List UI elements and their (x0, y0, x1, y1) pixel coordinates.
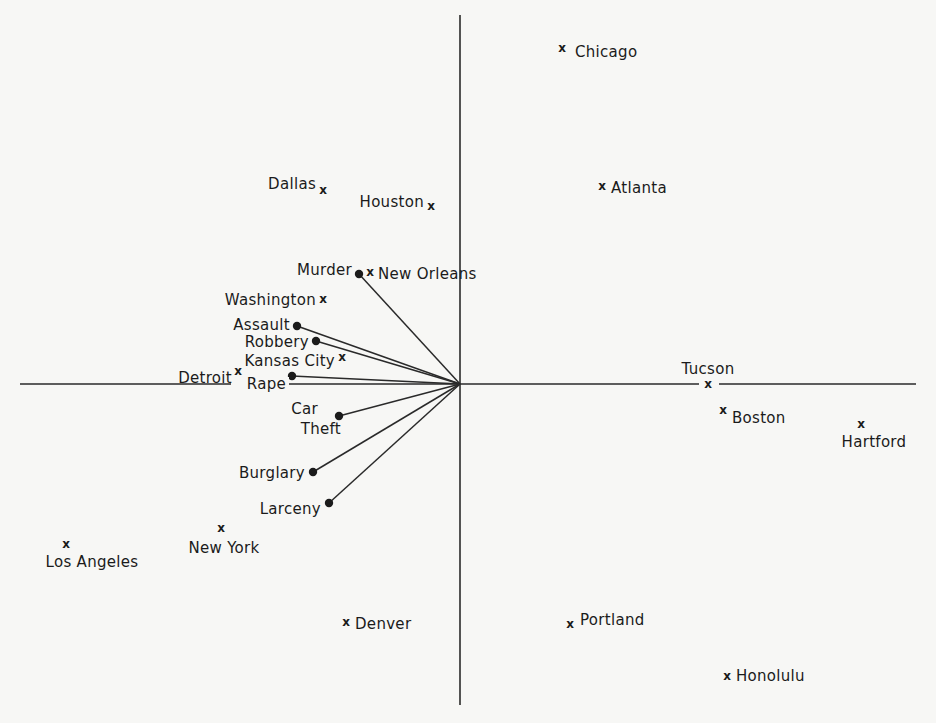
marker-atlanta: x (598, 179, 606, 193)
label-houston: Houston (360, 193, 424, 211)
label-denver: Denver (355, 615, 412, 633)
label-portland: Portland (580, 611, 645, 629)
label-assault: Assault (233, 316, 290, 334)
marker-hartford: x (857, 417, 865, 431)
marker-portland: x (566, 617, 574, 631)
marker-kansas-city: x (338, 350, 346, 364)
biplot-chart: Murder Assault Robbery Rape Car Theft Bu… (0, 0, 936, 723)
label-honolulu: Honolulu (736, 667, 805, 685)
label-boston: Boston (732, 409, 786, 427)
marker-boston: x (719, 403, 727, 417)
marker-new-york: x (217, 521, 225, 535)
dot-robbery (312, 337, 320, 345)
city-labels: Chicago Atlanta Dallas Houston New Orlea… (46, 43, 907, 685)
dot-rape (288, 372, 296, 380)
marker-tucson: x (704, 377, 712, 391)
label-larceny: Larceny (260, 500, 321, 518)
label-murder: Murder (297, 261, 353, 279)
label-robbery: Robbery (245, 333, 309, 351)
vector-murder (359, 274, 460, 384)
label-detroit: Detroit (178, 369, 232, 387)
label-washington: Washington (225, 291, 316, 309)
marker-new-orleans: x (366, 265, 374, 279)
dot-assault (293, 322, 301, 330)
label-theft: Theft (300, 420, 341, 438)
marker-dallas: x (319, 183, 327, 197)
label-car: Car (291, 400, 318, 418)
marker-detroit: x (234, 364, 242, 378)
label-kansas-city: Kansas City (244, 352, 335, 370)
label-new-orleans: New Orleans (378, 265, 477, 283)
label-burglary: Burglary (239, 464, 305, 482)
label-rape: Rape (247, 375, 286, 393)
label-hartford: Hartford (842, 433, 907, 451)
dot-car-theft (335, 412, 343, 420)
dot-burglary (309, 468, 317, 476)
label-los-angeles: Los Angeles (46, 553, 139, 571)
label-chicago: Chicago (575, 43, 637, 61)
marker-los-angeles: x (62, 537, 70, 551)
city-markers: x x x x x x x x x x x x x x x x (62, 41, 865, 683)
marker-chicago: x (558, 41, 566, 55)
marker-honolulu: x (723, 669, 731, 683)
marker-denver: x (342, 615, 350, 629)
label-tucson: Tucson (681, 360, 735, 378)
label-new-york: New York (188, 539, 259, 557)
marker-houston: x (427, 199, 435, 213)
label-dallas: Dallas (268, 175, 316, 193)
label-atlanta: Atlanta (611, 179, 667, 197)
dot-larceny (325, 499, 333, 507)
marker-washington: x (319, 292, 327, 306)
dot-murder (355, 270, 363, 278)
